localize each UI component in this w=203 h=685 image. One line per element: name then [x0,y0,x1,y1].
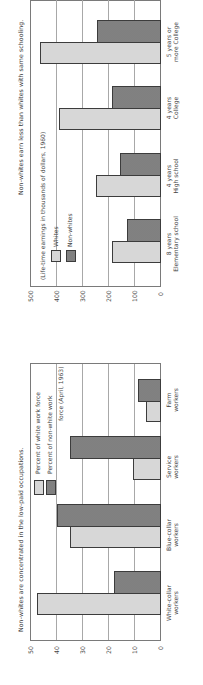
bar-nonwhite-service [70,436,161,459]
tick-label: 30 [79,646,86,654]
category-label-highschool: 4 years High school [165,144,179,208]
bar-white-bluecollar [70,526,161,548]
category-label-college: 4 years College [165,76,179,140]
category-label-whitecollar: White-collar workers [165,578,179,628]
legend-label-nonwhite-workforce: Percent of non-white work [46,396,53,474]
tick-label: 0 [157,646,164,650]
bar-nonwhites-postgrad [97,20,161,43]
legend-swatch-white-workforce [34,480,44,495]
category-label-farm: Farm workers [165,375,179,425]
earnings-chart-subtitle: (Life-time earnings in thousands of doll… [39,132,46,280]
legend-label-whites: Whites [52,226,59,247]
tick-label: 10 [131,646,138,654]
bar-nonwhites-highschool [120,153,161,176]
legend-label-white-workforce: Percent of white work force [34,392,41,474]
bar-white-service [133,458,161,480]
legend-label-nonwhite-workforce-cont: force [57,406,64,421]
tick-label: 20 [105,646,112,654]
legend-swatch-whites [51,250,61,262]
bar-nonwhite-bluecollar [57,504,161,527]
bar-nonwhite-farm [138,379,161,402]
tick-label: 500 [27,290,34,302]
bar-white-farm [146,401,161,422]
tick-label: 0 [157,292,164,296]
bar-whites-elementary [112,241,161,263]
legend-label-nonwhites: Non-whites [66,213,73,247]
category-label-postgrad: 5 years or more College [165,10,179,74]
tick-label: 200 [105,290,112,302]
earnings-chart-title: Non-whites earn less than whites with sa… [17,20,24,195]
category-label-elementary: 8 years Elementary school [165,212,179,276]
occupations-chart-title: Non-whites are concentrated in the low-p… [17,447,24,632]
bar-nonwhites-college [112,86,161,109]
bar-nonwhites-elementary [127,219,161,242]
bar-whites-postgrad [40,42,161,64]
tick-label: 50 [27,646,34,654]
tick-label: 40 [53,646,60,654]
bar-whites-highschool [96,175,161,197]
bar-nonwhite-whitecollar [114,571,161,594]
legend-swatch-nonwhites [66,250,76,262]
bar-white-whitecollar [37,593,161,615]
legend-label-date: (April, 1963) [57,367,64,404]
tick-label: 300 [79,290,86,302]
bar-whites-college [59,108,161,130]
tick-label: 100 [131,290,138,302]
category-label-service: Service workers [165,442,179,492]
legend-swatch-nonwhite-workforce [46,480,56,495]
category-label-bluecollar: Blue-collar workers [165,510,179,560]
tick-label: 400 [53,290,60,302]
